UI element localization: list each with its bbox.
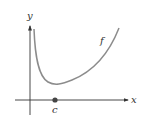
point-label-c: c [52, 104, 58, 115]
function-curve-f [34, 28, 119, 84]
curve-label-f: f [99, 35, 106, 46]
graph-diagram: x y f c [0, 0, 145, 128]
y-axis-label: y [26, 10, 33, 21]
x-axis-label: x [131, 94, 137, 105]
point-c [52, 97, 57, 102]
